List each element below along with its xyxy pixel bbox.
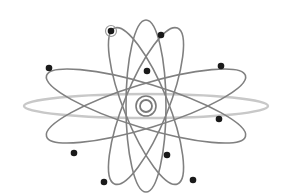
electron [108,28,115,35]
electrons [46,26,225,186]
atom-diagram [0,0,282,194]
electron [164,152,171,159]
nucleus [136,96,156,116]
electron [144,68,151,75]
nucleus-ring [140,100,152,112]
electron [216,116,223,123]
orbits [24,20,268,192]
nucleus-ring [136,96,156,116]
orbit-tilt-left [94,20,198,192]
electron [158,32,165,39]
orbit-vertical [126,20,166,192]
orbit-tilt-right [94,20,198,192]
electron [71,150,78,157]
orbit-horizontal-light [24,94,268,118]
electron [101,179,108,186]
electron [218,63,225,70]
electron [190,177,197,184]
electron [46,65,53,72]
